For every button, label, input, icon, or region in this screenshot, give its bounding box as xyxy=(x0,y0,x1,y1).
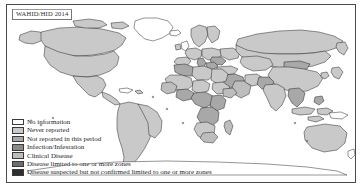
legend-label-no-information: No information xyxy=(27,118,70,126)
map-source-label: WAHID/HID 2014 xyxy=(12,9,72,20)
legend-swatch-never-reported xyxy=(12,127,24,134)
source-text: WAHID/HID 2014 xyxy=(16,11,68,18)
legend-swatch-infection-infestation xyxy=(12,144,24,151)
legend-label-clinical-disease: Clinical Disease xyxy=(27,152,73,160)
legend-label-not-reported-in-this-period: Not reported in this period xyxy=(27,135,101,143)
legend-item-infection-infestation: Infection/Infestation xyxy=(12,143,212,151)
legend-label-disease-suspected-not-confirmed: Disease suspected but not confirmed limi… xyxy=(27,168,212,176)
map-frame: .ld { stroke: #111; stroke-width: 0.45; … xyxy=(6,4,356,183)
legend-item-disease-suspected-not-confirmed: Disease suspected but not confirmed limi… xyxy=(12,168,212,176)
legend-item-never-reported: Never reported xyxy=(12,126,212,134)
legend-item-clinical-disease: Clinical Disease xyxy=(12,152,212,160)
legend-swatch-disease-limited-to-zones xyxy=(12,161,24,168)
legend-label-infection-infestation: Infection/Infestation xyxy=(27,143,84,151)
legend-swatch-no-information xyxy=(12,119,24,126)
figure-root: .ld { stroke: #111; stroke-width: 0.45; … xyxy=(0,0,364,195)
legend-swatch-disease-suspected-not-confirmed xyxy=(12,169,24,176)
legend-item-no-information: No information xyxy=(12,118,212,126)
legend-swatch-not-reported-in-this-period xyxy=(12,136,24,143)
map-legend: No information Never reported Not report… xyxy=(12,118,212,177)
legend-swatch-clinical-disease xyxy=(12,152,24,159)
legend-item-not-reported-in-this-period: Not reported in this period xyxy=(12,135,212,143)
legend-label-never-reported: Never reported xyxy=(27,126,69,134)
